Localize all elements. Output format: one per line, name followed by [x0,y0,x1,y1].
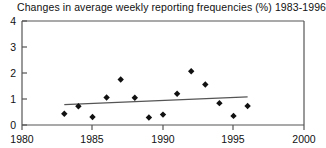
data-point-marker [188,68,194,74]
data-point-marker [202,81,208,87]
y-tick-label: 3 [10,41,16,53]
y-tick-labels: 0 1 2 3 4 [10,15,16,131]
data-point-marker [103,94,109,100]
x-tick-label: 1995 [221,133,245,145]
x-tick-label: 1990 [151,133,175,145]
data-points [61,68,251,121]
data-point-marker [132,95,138,101]
data-point-marker [216,100,222,106]
data-point-marker [230,113,236,119]
data-point-marker [146,114,152,120]
y-tick-label: 1 [10,93,16,105]
data-point-marker [244,103,250,109]
data-point-marker [174,91,180,97]
y-axis-ticks [22,21,27,125]
x-tick-labels: 1980 1985 1990 1995 2000 [10,133,316,145]
data-point-marker [61,111,67,117]
x-tick-label: 1980 [10,133,34,145]
data-point-marker [118,76,124,82]
x-tick-label: 2000 [292,133,316,145]
y-tick-label: 2 [10,67,16,79]
data-point-marker [89,114,95,120]
x-axis-ticks [22,125,304,130]
y-tick-label: 0 [10,119,16,131]
x-tick-label: 1985 [80,133,104,145]
y-tick-label: 4 [10,15,16,27]
axis-frame [22,21,304,125]
data-point-marker [160,111,166,117]
